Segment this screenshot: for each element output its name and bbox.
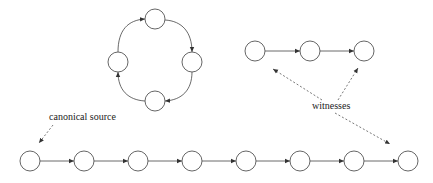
witnesses-annotation: witnesses [273,68,390,144]
graph-diagram: canonical source witnesses [0,0,433,183]
cycle-node-top [145,9,165,29]
main-node-2 [74,151,94,171]
edge-left-to-top [118,19,145,52]
canonical-source-label: canonical source [49,111,116,122]
cycle-node-right [182,52,202,72]
cycle-node-bottom [145,91,165,111]
witness-node-3 [354,41,374,61]
main-node-5 [236,151,256,171]
witness-arrow-to-w1 [273,69,322,100]
main-node-1 [20,151,40,171]
edge-bottom-to-left [118,72,145,101]
witness-arrow-to-m8 [335,113,390,144]
main-node-8 [398,151,418,171]
main-node-7 [344,151,364,171]
canonical-source-arrow [39,125,53,143]
main-node-6 [290,151,310,171]
witness-chain [245,41,374,61]
edge-right-to-bottom [165,72,192,101]
witnesses-label: witnesses [312,100,350,111]
witness-arrow-to-w3 [338,68,358,100]
main-node-4 [182,151,202,171]
cycle-nodes [108,9,202,111]
cycle-edges [118,19,192,101]
main-node-3 [128,151,148,171]
witness-node-2 [300,41,320,61]
cycle-node-left [108,52,128,72]
edge-top-to-right [165,20,192,52]
witness-node-1 [245,41,265,61]
canonical-source-annotation: canonical source [39,111,116,143]
main-chain [20,151,418,171]
